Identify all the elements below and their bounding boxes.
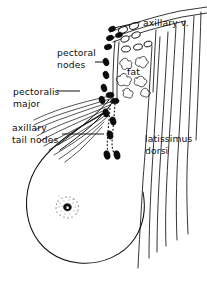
label-fat: fat — [127, 66, 140, 78]
label-pectoral-nodes: pectoral nodes — [57, 47, 96, 70]
nipple — [63, 203, 71, 211]
label-pectoralis-major: pectoralis major — [13, 86, 60, 109]
label-latissimus-dorsi: latissimus dorsi — [145, 133, 193, 156]
lymph-nodes-filled — [98, 25, 123, 160]
dotted-lymphatic-chain — [107, 98, 115, 154]
anatomical-figure-breast-lymphatics: axillary v. pectoral nodes fat pectorali… — [0, 0, 207, 291]
label-axillary-vein: axillary v. — [143, 17, 189, 29]
label-axillary-tail-nodes: axillary tail nodes — [12, 122, 58, 145]
